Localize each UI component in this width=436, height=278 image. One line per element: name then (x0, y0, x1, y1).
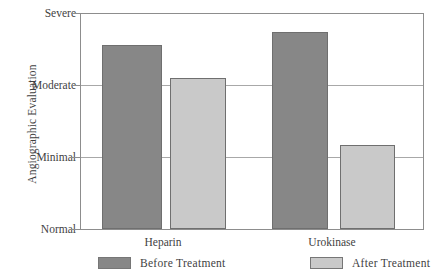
legend-swatch-before-treatment-icon (98, 257, 131, 269)
plot-area (80, 13, 424, 230)
y-tick-mark-normal (71, 229, 80, 230)
x-category-label-heparin: Heparin (144, 236, 181, 248)
legend-label-before-treatment: Before Treatment (140, 257, 226, 269)
x-category-label-urokinase: Urokinase (308, 236, 355, 248)
legend-entry-after-treatment: After Treatment (310, 257, 430, 269)
chart-legend: Before Treatment After Treatment (0, 255, 436, 275)
legend-swatch-after-treatment-icon (310, 257, 343, 269)
y-tick-mark-moderate (71, 85, 80, 86)
legend-label-after-treatment: After Treatment (352, 257, 430, 269)
y-tick-mark-minimal (71, 157, 80, 158)
bar-urokinase-before-treatment (272, 32, 328, 229)
bar-urokinase-after-treatment (340, 145, 395, 229)
bar-heparin-before-treatment (102, 45, 162, 229)
y-tick-label-moderate: Moderate (4, 79, 76, 91)
y-tick-label-minimal: Minimal (4, 151, 76, 163)
y-tick-label-severe: Severe (4, 7, 76, 19)
y-axis-tick-labels: Severe Moderate Minimal Normal (0, 0, 76, 278)
y-tick-mark-severe (71, 13, 80, 14)
angiographic-evaluation-bar-chart: Angiographic Evaluation Severe Moderate … (0, 0, 436, 278)
y-tick-label-normal: Normal (4, 223, 76, 235)
bar-heparin-after-treatment (170, 78, 226, 229)
legend-entry-before-treatment: Before Treatment (98, 257, 226, 269)
